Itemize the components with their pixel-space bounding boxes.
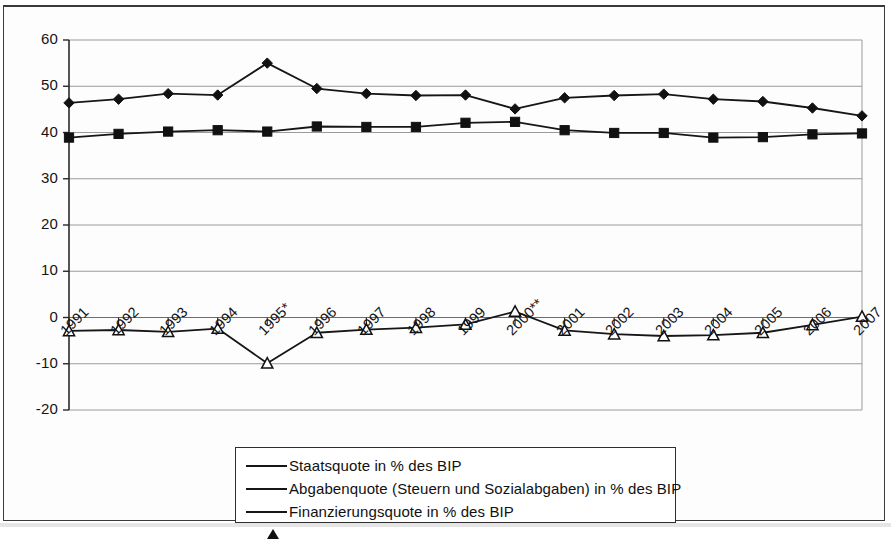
data-point-marker — [163, 88, 173, 98]
y-axis-tick-label: 60 — [16, 30, 58, 47]
data-point-marker — [758, 133, 767, 142]
data-point-marker — [114, 129, 123, 138]
data-point-marker — [411, 122, 420, 131]
data-point-marker — [510, 104, 520, 114]
y-axis-tick-label: 50 — [16, 76, 58, 93]
data-point-marker — [609, 90, 619, 100]
data-point-marker — [312, 122, 321, 131]
data-point-marker — [411, 90, 421, 100]
data-point-marker — [361, 88, 371, 98]
data-point-marker — [461, 118, 470, 127]
legend-entry: Finanzierungsquote in % des BIP — [244, 500, 675, 523]
data-point-marker — [709, 133, 718, 142]
data-point-marker — [113, 94, 123, 104]
scan-edge-artifact — [0, 523, 891, 527]
legend-line-sample — [246, 465, 287, 467]
data-point-marker — [807, 103, 817, 113]
series-1 — [64, 58, 867, 121]
legend-marker-square-icon — [244, 481, 289, 497]
data-point-marker — [164, 127, 173, 136]
data-point-marker — [610, 128, 619, 137]
data-point-marker — [857, 129, 866, 138]
chart-frame: 6050403020100-10-20 19911992199319941995… — [3, 5, 885, 521]
data-point-marker — [758, 96, 768, 106]
y-axis-tick-label: 10 — [16, 261, 58, 278]
chart-root: 6050403020100-10-20 19911992199319941995… — [4, 7, 884, 520]
data-point-marker — [212, 90, 222, 100]
data-point-marker — [510, 117, 519, 126]
y-axis-tick-label: 20 — [16, 215, 58, 232]
legend-entry: Abgabenquote (Steuern und Sozialabgaben)… — [244, 477, 675, 500]
series-2 — [64, 117, 866, 142]
data-point-marker — [857, 111, 867, 121]
data-point-marker — [560, 126, 569, 135]
data-point-marker — [460, 90, 470, 100]
data-point-marker — [808, 130, 817, 139]
y-axis-tick-label: 30 — [16, 169, 58, 186]
data-point-marker — [312, 83, 322, 93]
legend-label: Abgabenquote (Steuern und Sozialabgaben)… — [289, 480, 681, 497]
data-point-marker — [362, 122, 371, 131]
y-axis-tick-label: -20 — [16, 400, 58, 417]
data-point-marker — [263, 127, 272, 136]
y-axis-tick-label: 0 — [16, 308, 58, 325]
data-point-marker — [262, 58, 272, 68]
legend-marker-triangle-icon — [244, 504, 289, 520]
data-point-marker — [213, 126, 222, 135]
data-point-marker — [64, 133, 73, 142]
y-axis-tick-label: 40 — [16, 123, 58, 140]
legend-marker-diamond-icon — [244, 458, 289, 474]
data-point-marker — [559, 93, 569, 103]
legend-label: Staatsquote in % des BIP — [289, 457, 462, 474]
chart-legend: Staatsquote in % des BIPAbgabenquote (St… — [235, 447, 676, 523]
y-axis-tick-label: -10 — [16, 354, 58, 371]
data-point-marker — [262, 358, 273, 368]
data-point-marker — [708, 94, 718, 104]
data-point-marker — [659, 89, 669, 99]
data-point-marker — [659, 128, 668, 137]
legend-entry: Staatsquote in % des BIP — [244, 454, 675, 477]
legend-line-sample — [246, 488, 287, 490]
legend-label: Finanzierungsquote in % des BIP — [289, 503, 514, 520]
data-point-marker — [64, 98, 74, 108]
